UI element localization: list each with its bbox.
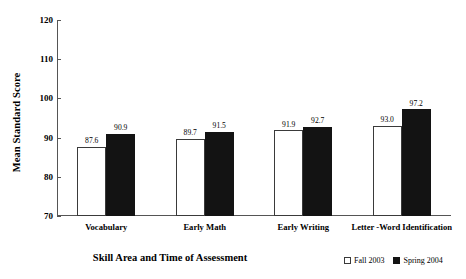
bar-group: 91.992.7Early Writing	[254, 20, 353, 216]
x-axis-category-label: Early Writing	[278, 222, 330, 232]
bar-value-label: 87.6	[85, 137, 98, 145]
bar-value-label: 90.9	[114, 124, 127, 132]
y-axis-title: Mean Standard Score	[8, 48, 26, 196]
y-axis-tick-label: 100	[27, 94, 53, 103]
legend-label: Fall 2003	[354, 256, 384, 265]
bar-fall-2003[interactable]	[77, 147, 106, 216]
bar-fall-2003[interactable]	[176, 139, 205, 216]
bar-chart-figure: Mean Standard Score 708090100110120 87.6…	[0, 0, 466, 279]
bar-value-label: 97.2	[410, 100, 423, 108]
bar-pair: 87.690.9	[57, 20, 156, 216]
y-axis-title-text: Mean Standard Score	[12, 72, 23, 172]
y-axis-tick-mark	[57, 216, 61, 217]
bar-spring-2004[interactable]	[106, 134, 135, 216]
bar-groups: 87.690.9Vocabulary89.791.5Early Math91.9…	[57, 20, 451, 216]
bar-column: 87.6	[77, 147, 106, 216]
bar-column: 92.7	[303, 127, 332, 216]
legend-item[interactable]: Fall 2003	[344, 256, 384, 265]
bar-column: 93.0	[373, 126, 402, 216]
y-axis-tick-label: 90	[27, 133, 53, 142]
y-axis-tick-label: 120	[27, 16, 53, 25]
legend-label: Spring 2004	[403, 256, 442, 265]
bar-pair: 93.097.2	[353, 20, 452, 216]
bar-column: 97.2	[402, 109, 431, 216]
y-axis-tick-label: 70	[27, 212, 53, 221]
bar-group: 89.791.5Early Math	[156, 20, 255, 216]
bar-spring-2004[interactable]	[303, 127, 332, 216]
x-axis-category-label: Letter -Word Identification	[351, 222, 452, 232]
bar-pair: 91.992.7	[254, 20, 353, 216]
bar-fall-2003[interactable]	[274, 130, 303, 216]
bar-value-label: 93.0	[381, 116, 394, 124]
y-axis-tick-label: 80	[27, 172, 53, 181]
bar-group: 87.690.9Vocabulary	[57, 20, 156, 216]
bar-spring-2004[interactable]	[402, 109, 431, 216]
x-axis-category-label: Vocabulary	[85, 222, 127, 232]
chart-legend: Fall 2003Spring 2004	[344, 256, 443, 265]
legend-swatch-open-square-icon	[344, 257, 351, 264]
bar-column: 89.7	[176, 139, 205, 216]
legend-swatch-filled-square-icon	[393, 257, 400, 264]
legend-item[interactable]: Spring 2004	[393, 256, 442, 265]
bar-value-label: 91.5	[213, 122, 226, 130]
bar-value-label: 89.7	[184, 129, 197, 137]
bar-spring-2004[interactable]	[205, 132, 234, 216]
bar-column: 90.9	[106, 134, 135, 216]
y-axis-tick-label: 110	[27, 55, 53, 64]
x-axis-title: Skill Area and Time of Assessment	[0, 252, 340, 263]
bar-pair: 89.791.5	[156, 20, 255, 216]
bar-value-label: 92.7	[311, 117, 324, 125]
bar-group: 93.097.2Letter -Word Identification	[353, 20, 452, 216]
plot-area: 708090100110120 87.690.9Vocabulary89.791…	[57, 20, 451, 216]
bar-fall-2003[interactable]	[373, 126, 402, 216]
bar-value-label: 91.9	[282, 121, 295, 129]
x-axis-category-label: Early Math	[183, 222, 226, 232]
bar-column: 91.9	[274, 130, 303, 216]
bar-column: 91.5	[205, 132, 234, 216]
